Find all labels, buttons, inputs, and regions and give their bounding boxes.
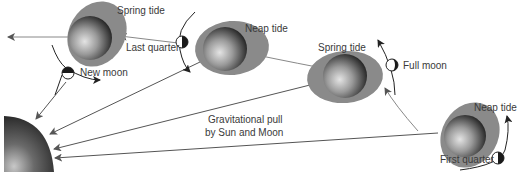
label-spring-tide-full: Spring tide: [318, 42, 366, 54]
tides-diagram: Spring tide New moon Last quarter Neap t…: [0, 0, 521, 177]
label-neap-tide-last: Neap tide: [245, 23, 288, 35]
label-gravity-line1: Gravitational pull: [208, 114, 282, 126]
label-full-moon: Full moon: [403, 60, 447, 72]
earth-spring-tide-full: [305, 48, 385, 106]
label-neap-tide-first: Neap tide: [474, 102, 517, 114]
label-gravity-line2: by Sun and Moon: [205, 127, 283, 139]
label-spring-tide-new: Spring tide: [117, 5, 165, 17]
new-moon-icon: [62, 67, 74, 79]
sun-icon: [4, 116, 54, 172]
label-new-moon: New moon: [80, 67, 128, 79]
full-moon-icon: [386, 59, 398, 71]
label-first-quarter: First quarter: [440, 154, 494, 166]
label-last-quarter: Last quarter: [126, 42, 179, 54]
